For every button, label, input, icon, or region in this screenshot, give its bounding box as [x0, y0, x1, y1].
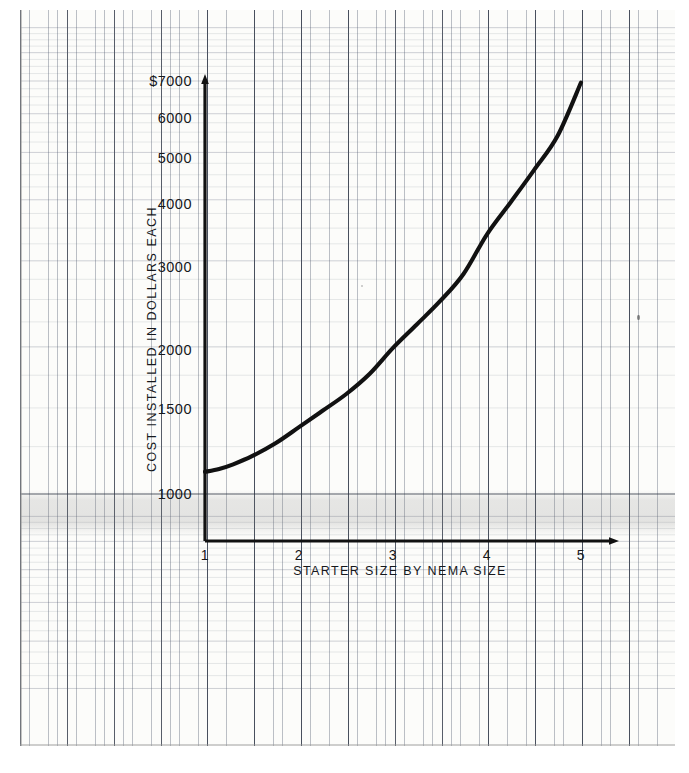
y-tick-label-5000: 5000 [120, 150, 192, 166]
x-tick-label-3: 3 [389, 547, 397, 563]
cost-curve [205, 83, 581, 472]
y-axis-arrowhead [201, 74, 209, 84]
y-tick-label-1000: 1000 [120, 486, 192, 502]
chart-page: $7000 6000 5000 4000 3000 2000 1500 1000… [0, 0, 689, 773]
x-tick-label-1: 1 [201, 547, 209, 563]
x-axis-title: STARTER SIZE BY NEMA SIZE [293, 564, 507, 578]
paper-speck [637, 315, 640, 320]
y-tick-label-7000: $7000 [120, 73, 192, 89]
y-axis-title: COST INSTALLED IN DOLLARS EACH [145, 206, 159, 472]
plot-overlay [0, 0, 689, 773]
x-tick-label-4: 4 [483, 547, 491, 563]
paper-speck [361, 285, 363, 287]
x-tick-label-2: 2 [295, 547, 303, 563]
y-tick-label-6000: 6000 [120, 110, 192, 126]
x-tick-label-5: 5 [577, 547, 585, 563]
x-axis-arrowhead [609, 537, 619, 545]
